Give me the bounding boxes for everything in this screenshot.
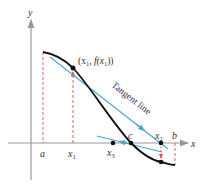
- label-x1: x1: [67, 148, 76, 160]
- x-axis-label: x: [190, 138, 196, 149]
- label-x2: x2: [154, 130, 163, 142]
- tangent-line-label: Tangent line: [110, 80, 153, 117]
- tangent-line-1-arrow: [136, 124, 142, 129]
- point-fx2: [159, 160, 164, 165]
- label-c: c: [128, 130, 133, 141]
- tangent-line-1: [50, 57, 168, 149]
- label-x3: x3: [106, 147, 115, 159]
- point-label: (x1, f(x1)): [78, 56, 114, 67]
- point-c: [129, 141, 134, 146]
- point-x3: [111, 141, 116, 146]
- label-b: b: [172, 130, 177, 141]
- newtons-method-diagram: y x (x1, f(x1)) Tangent line a x1 x3 c x…: [0, 0, 200, 184]
- point-x1-fx1: [71, 66, 76, 71]
- label-a: a: [40, 148, 45, 159]
- diagram-canvas: y x (x1, f(x1)) Tangent line a x1 x3 c x…: [0, 0, 200, 184]
- y-axis-label: y: [27, 7, 33, 18]
